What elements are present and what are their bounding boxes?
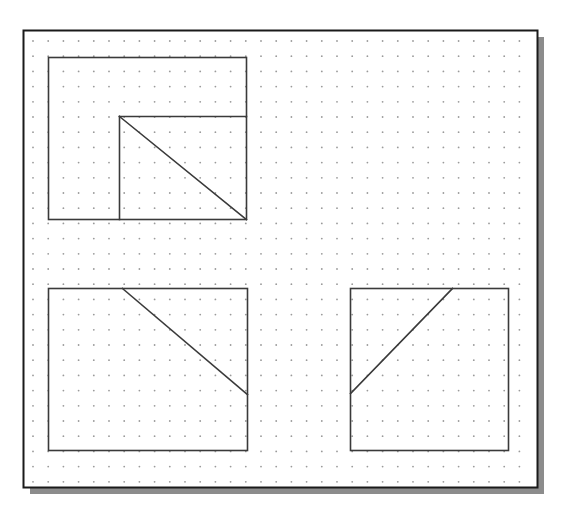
grid-dot (412, 86, 414, 88)
grid-dot (78, 116, 80, 118)
grid-dot (47, 238, 49, 240)
grid-dot (458, 329, 460, 331)
grid-dot (199, 405, 201, 407)
grid-dot (443, 435, 445, 437)
grid-dot (321, 40, 323, 42)
grid-dot (154, 390, 156, 392)
grid-dot (306, 329, 308, 331)
grid-dot (351, 359, 353, 361)
grid-dot (275, 420, 277, 422)
grid-dot (458, 131, 460, 133)
grid-dot (169, 192, 171, 194)
grid-dot (382, 192, 384, 194)
grid-dot (291, 329, 293, 331)
grid-dot (382, 344, 384, 346)
grid-dot (108, 481, 110, 483)
grid-dot (63, 162, 65, 164)
grid-dot (275, 192, 277, 194)
grid-dot (108, 268, 110, 270)
grid-dot (321, 375, 323, 377)
grid-dot (169, 207, 171, 209)
grid-dot (427, 329, 429, 331)
grid-dot (503, 329, 505, 331)
grid-dot (503, 147, 505, 149)
grid-dot (245, 223, 247, 225)
grid-dot (245, 329, 247, 331)
grid-dot (382, 268, 384, 270)
grid-dot (169, 299, 171, 301)
grid-dot (123, 40, 125, 42)
grid-dot (260, 40, 262, 42)
grid-dot (306, 420, 308, 422)
grid-dot (397, 253, 399, 255)
grid-dot (275, 207, 277, 209)
grid-dot (291, 451, 293, 453)
grid-dot (184, 390, 186, 392)
grid-dot (458, 268, 460, 270)
grid-dot (397, 420, 399, 422)
grid-dot (32, 162, 34, 164)
drawing-canvas-stage (0, 0, 569, 516)
grid-dot (215, 299, 217, 301)
grid-dot (184, 359, 186, 361)
grid-dot (367, 131, 369, 133)
grid-dot (336, 238, 338, 240)
grid-dot (351, 329, 353, 331)
grid-dot (32, 147, 34, 149)
grid-dot (306, 405, 308, 407)
grid-dot (473, 344, 475, 346)
grid-dot (275, 101, 277, 103)
grid-dot (123, 253, 125, 255)
grid-dot (519, 253, 521, 255)
grid-dot (78, 71, 80, 73)
grid-dot (123, 192, 125, 194)
grid-dot (275, 344, 277, 346)
grid-dot (503, 162, 505, 164)
grid-dot (230, 238, 232, 240)
grid-dot (306, 177, 308, 179)
grid-dot (169, 101, 171, 103)
grid-dot (93, 466, 95, 468)
grid-dot (154, 268, 156, 270)
grid-dot (275, 466, 277, 468)
grid-dot (245, 253, 247, 255)
grid-dot (519, 238, 521, 240)
grid-dot (503, 466, 505, 468)
grid-dot (503, 131, 505, 133)
grid-dot (123, 238, 125, 240)
grid-dot (412, 101, 414, 103)
grid-dot (169, 238, 171, 240)
grid-dot (412, 299, 414, 301)
grid-dot (245, 466, 247, 468)
grid-dot (215, 253, 217, 255)
grid-dot (245, 268, 247, 270)
grid-dot (397, 101, 399, 103)
grid-dot (169, 283, 171, 285)
grid-dot (123, 223, 125, 225)
grid-dot (93, 420, 95, 422)
grid-dot (473, 268, 475, 270)
grid-dot (215, 344, 217, 346)
grid-dot (519, 481, 521, 483)
grid-dot (458, 314, 460, 316)
grid-dot (184, 101, 186, 103)
grid-dot (473, 40, 475, 42)
grid-dot (412, 481, 414, 483)
grid-dot (108, 207, 110, 209)
grid-dot (93, 268, 95, 270)
grid-dot (123, 359, 125, 361)
grid-dot (382, 86, 384, 88)
grid-dot (139, 101, 141, 103)
grid-dot (245, 40, 247, 42)
grid-dot (123, 344, 125, 346)
grid-dot (230, 177, 232, 179)
grid-dot (230, 299, 232, 301)
grid-dot (488, 299, 490, 301)
grid-dot (215, 177, 217, 179)
grid-dot (306, 40, 308, 42)
grid-dot (245, 299, 247, 301)
grid-dot (184, 162, 186, 164)
grid-dot (230, 147, 232, 149)
grid-dot (63, 116, 65, 118)
grid-dot (154, 147, 156, 149)
